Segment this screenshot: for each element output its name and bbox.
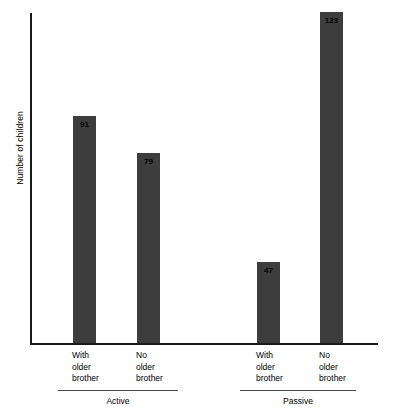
group-label-active: Active (58, 396, 178, 406)
x-axis-label-active-with-older-brother: With older brother (72, 350, 130, 385)
bar-active-no-older-brother: 79 (137, 153, 160, 343)
bar-passive-with-older-brother: 47 (257, 262, 280, 343)
bar-value-label: 79 (137, 157, 160, 166)
plot-area: 91 79 47 123 (31, 13, 378, 343)
x-axis-label-line-2: older (256, 362, 314, 374)
bar-active-with-older-brother: 91 (73, 116, 96, 343)
y-axis-title: Number of children (15, 83, 25, 213)
group-rule-active (58, 390, 178, 391)
x-axis-label-passive-with-older-brother: With older brother (256, 350, 314, 385)
x-axis-label-line-2: older (319, 362, 377, 374)
x-axis-label-line-1: With (256, 350, 314, 362)
x-axis-label-line-2: older (136, 362, 194, 374)
x-axis-label-line-3: brother (256, 373, 314, 385)
x-axis-label-active-no-older-brother: No older brother (136, 350, 194, 385)
x-axis-label-line-3: brother (72, 373, 130, 385)
group-rule-passive (240, 390, 356, 391)
group-label-passive: Passive (240, 396, 356, 406)
bar-value-label: 47 (257, 266, 280, 275)
x-axis-label-line-1: With (72, 350, 130, 362)
x-axis-label-line-3: brother (136, 373, 194, 385)
x-axis-line (30, 343, 378, 345)
x-axis-label-line-3: brother (319, 373, 377, 385)
x-axis-label-passive-no-older-brother: No older brother (319, 350, 377, 385)
x-axis-label-line-1: No (136, 350, 194, 362)
bar-value-label: 91 (73, 120, 96, 129)
bar-chart: Number of children 91 79 47 123 With old… (0, 0, 395, 417)
x-axis-label-line-1: No (319, 350, 377, 362)
x-axis-label-line-2: older (72, 362, 130, 374)
bar-value-label: 123 (320, 16, 343, 25)
bar-passive-no-older-brother: 123 (320, 12, 343, 343)
